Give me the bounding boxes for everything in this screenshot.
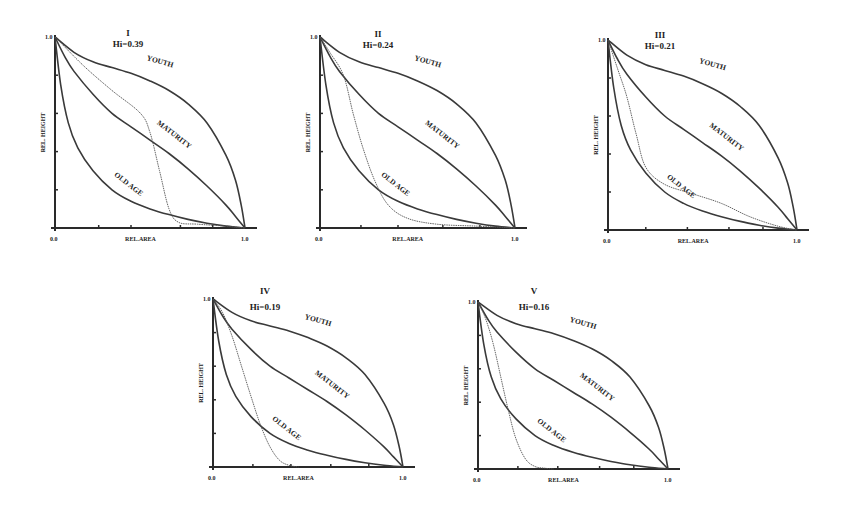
observed-basin-curve	[478, 302, 554, 469]
x-tick-label-end: 1.0	[511, 236, 519, 242]
hypsometric-integral-label: Hi=0.21	[645, 41, 676, 51]
x-tick-label-start: 0.0	[473, 477, 481, 483]
x-axis-label: REL.AREA	[283, 475, 315, 481]
hypsometric-curves-figure: 1.00.01.0REL.AREAREL. HEIGHTIHi=0.39YOUT…	[0, 0, 843, 526]
chart-panel-v: 1.00.01.0REL.AREAREL. HEIGHTVHi=0.16YOUT…	[463, 286, 680, 483]
x-tick-label-end: 1.0	[241, 236, 249, 242]
curve-youth	[320, 37, 515, 228]
x-tick-label-start: 0.0	[315, 236, 323, 242]
chart-title: I	[126, 28, 130, 38]
chart-panel-i: 1.00.01.0REL.AREAREL. HEIGHTIHi=0.39YOUT…	[40, 28, 257, 242]
curve-label-old-age: OLD AGE	[536, 416, 568, 444]
x-axis-label: REL.AREA	[392, 236, 424, 242]
hypsometric-integral-label: Hi=0.39	[113, 39, 144, 49]
x-axis-label: REL.AREA	[125, 236, 157, 242]
observed-basin-curve	[608, 40, 797, 230]
observed-basin-curve	[320, 37, 515, 228]
y-tick-label-top: 1.0	[45, 34, 53, 40]
y-tick-label-top: 1.0	[598, 37, 606, 43]
curve-maturity	[213, 299, 403, 467]
chart-title: V	[531, 286, 538, 296]
x-tick-label-start: 0.0	[208, 475, 216, 481]
curve-label-maturity: MATURITY	[155, 118, 193, 151]
curve-label-old-age: OLD AGE	[271, 414, 303, 442]
chart-title: IV	[260, 286, 271, 296]
curve-label-maturity: MATURITY	[708, 121, 746, 154]
x-tick-label-end: 1.0	[399, 475, 407, 481]
x-tick-label-start: 0.0	[603, 238, 611, 244]
observed-basin-curve	[55, 37, 245, 228]
y-axis-label: REL. HEIGHT	[305, 113, 311, 153]
chart-panel-ii: 1.00.01.0REL.AREAREL. HEIGHTIIHi=0.24YOU…	[305, 29, 527, 242]
chart-title: II	[374, 29, 382, 39]
x-tick-label-start: 0.0	[50, 236, 58, 242]
curve-maturity	[478, 302, 668, 469]
curve-youth	[213, 299, 403, 467]
curve-label-youth: YOUTH	[569, 315, 598, 331]
x-axis-label: REL.AREA	[678, 238, 710, 244]
curve-label-maturity: MATURITY	[423, 118, 461, 151]
y-axis-label: REL. HEIGHT	[40, 113, 46, 153]
curve-label-youth: YOUTH	[413, 53, 442, 69]
y-axis-label: REL. HEIGHT	[198, 363, 204, 403]
curve-label-youth: YOUTH	[304, 312, 333, 328]
y-tick-label-top: 1.0	[310, 34, 318, 40]
hypsometric-integral-label: Hi=0.24	[363, 40, 394, 50]
curve-old-age	[478, 302, 668, 469]
curve-youth	[478, 302, 668, 469]
y-axis-label: REL. HEIGHT	[463, 366, 469, 406]
x-tick-label-end: 1.0	[664, 477, 672, 483]
curve-old-age	[320, 37, 515, 228]
x-tick-label-end: 1.0	[793, 238, 801, 244]
chart-panel-iv: 1.00.01.0REL.AREAREL. HEIGHTIVHi=0.19YOU…	[198, 286, 415, 481]
hypsometric-integral-label: Hi=0.19	[250, 302, 281, 312]
curve-label-youth: YOUTH	[698, 56, 727, 72]
chart-title: III	[655, 30, 666, 40]
y-tick-label-top: 1.0	[468, 299, 476, 305]
y-tick-label-top: 1.0	[203, 296, 211, 302]
hypsometric-integral-label: Hi=0.16	[519, 302, 550, 312]
y-axis-label: REL. HEIGHT	[593, 115, 599, 155]
chart-panel-iii: 1.00.01.0REL.AREAREL. HEIGHTIIIHi=0.21YO…	[593, 30, 809, 244]
curve-old-age	[213, 299, 403, 467]
x-axis-label: REL.AREA	[548, 477, 580, 483]
curve-label-youth: YOUTH	[146, 53, 175, 69]
curve-maturity	[320, 37, 515, 228]
